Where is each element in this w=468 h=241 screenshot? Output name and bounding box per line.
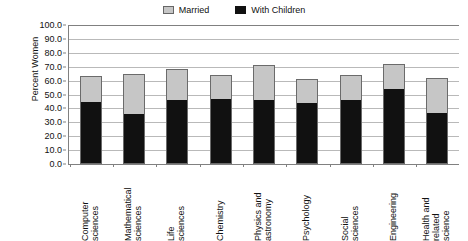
x-axis-category-label: Engineering [382, 170, 404, 241]
y-axis-tick-mark [63, 25, 66, 26]
x-axis-category-label-line: Life [166, 170, 176, 241]
y-axis-tick-mark [63, 150, 66, 151]
bar-series-container [69, 25, 459, 164]
bar-group[interactable] [210, 25, 232, 164]
y-axis-tick-label: 50.0 [44, 90, 62, 99]
legend-label-with-children: With Children [251, 6, 305, 15]
x-axis-category-label-text: Psychology [301, 170, 311, 241]
bar-segment-married[interactable] [210, 75, 232, 164]
bar-segment-married[interactable] [426, 78, 448, 164]
x-axis-category-label-line: sciences [133, 170, 143, 241]
x-axis-category-label-text: Engineering [388, 170, 398, 241]
y-axis-tick-mark [63, 66, 66, 67]
bar-group[interactable] [340, 25, 362, 164]
y-axis-tick-label: 80.0 [44, 48, 62, 57]
x-axis-category-label: Socialsciences [339, 170, 361, 241]
x-axis-category-label-text: Chemistry [215, 170, 225, 241]
bar-segment-with-children[interactable] [427, 113, 447, 163]
bar-segment-with-children[interactable] [81, 102, 101, 163]
legend-item-married: Married [163, 6, 210, 15]
y-axis-tick-mark [63, 122, 66, 123]
chart-legend: Married With Children [0, 2, 468, 18]
x-axis-category-label-line: Engineering [388, 170, 398, 241]
x-axis-tick-mark [122, 164, 144, 168]
x-axis-category-label-line: sciences [176, 170, 186, 241]
bar-group[interactable] [166, 25, 188, 164]
bar-segment-with-children[interactable] [211, 99, 231, 163]
plot-area [68, 25, 459, 165]
bar-segment-married[interactable] [123, 74, 145, 164]
x-axis-category-label-line: Social [340, 170, 350, 241]
y-axis-tick-label: 60.0 [44, 76, 62, 85]
y-axis-tick-label: 10.0 [44, 146, 62, 155]
x-axis-category-labels: ComputersciencesMathematicalsciencesLife… [68, 170, 458, 241]
y-axis-tick-mark [63, 94, 66, 95]
bar-segment-with-children[interactable] [384, 89, 404, 163]
x-axis-category-label-text: Socialsciences [340, 170, 360, 241]
x-axis-category-label-text: Physics andastronomy [253, 170, 273, 241]
x-axis-category-label-line: Chemistry [215, 170, 225, 241]
bar-group[interactable] [80, 25, 102, 164]
x-axis-category-label-line: science [441, 170, 451, 241]
y-axis-tick-mark [63, 136, 66, 137]
bar-segment-married[interactable] [166, 69, 188, 164]
bar-group[interactable] [296, 25, 318, 164]
x-axis-category-label: Computersciences [79, 170, 101, 241]
y-axis-tick-label: 70.0 [44, 62, 62, 71]
bar-segment-with-children[interactable] [341, 100, 361, 163]
bar-group[interactable] [253, 25, 275, 164]
x-axis-category-label-line: astronomy [263, 170, 273, 241]
bar-group[interactable] [383, 25, 405, 164]
x-axis-category-label-line: Computer [80, 170, 90, 241]
x-axis-category-label: Chemistry [209, 170, 231, 241]
y-axis-tick-label: 30.0 [44, 118, 62, 127]
bar-segment-married[interactable] [383, 64, 405, 164]
x-axis-category-label-line: Mathematical [123, 170, 133, 241]
x-axis-tick-mark [79, 164, 101, 168]
x-axis-category-label-text: Mathematicalsciences [123, 170, 143, 241]
y-axis-tick-label: 40.0 [44, 104, 62, 113]
bar-group[interactable] [426, 25, 448, 164]
y-axis-tick-label: 90.0 [44, 34, 62, 43]
bar-segment-married[interactable] [80, 76, 102, 164]
x-axis-category-label: Lifesciences [165, 170, 187, 241]
x-axis-category-label: Psychology [295, 170, 317, 241]
x-axis-category-label-line: Psychology [301, 170, 311, 241]
y-axis-tick-label: 100.0 [39, 21, 62, 30]
bar-segment-married[interactable] [296, 79, 318, 164]
x-axis-tick-mark [295, 164, 317, 168]
y-axis-tick-mark [63, 52, 66, 53]
legend-label-married: Married [179, 6, 210, 15]
x-axis-tick-mark [252, 164, 274, 168]
x-axis-ticks [68, 164, 458, 168]
bar-segment-with-children[interactable] [254, 100, 274, 163]
bar-segment-married[interactable] [253, 65, 275, 164]
x-axis-category-label: Health andrelatedscience [425, 170, 447, 241]
bar-segment-with-children[interactable] [124, 114, 144, 163]
x-axis-category-label-line: sciences [90, 170, 100, 241]
bar-segment-married[interactable] [340, 75, 362, 164]
bar-segment-with-children[interactable] [297, 103, 317, 163]
legend-item-with-children: With Children [235, 6, 305, 15]
y-axis-tick-labels: 100.090.080.070.060.050.040.030.020.010.… [22, 25, 66, 164]
y-axis-tick-label: 20.0 [44, 132, 62, 141]
y-axis-tick-mark [63, 38, 66, 39]
x-axis-category-label-text: Lifesciences [166, 170, 186, 241]
stacked-bar-chart: Married With Children Percent Women 100.… [0, 0, 468, 241]
x-axis-category-label: Mathematicalsciences [122, 170, 144, 241]
bar-segment-with-children[interactable] [167, 100, 187, 163]
x-axis-tick-mark [425, 164, 447, 168]
x-axis-category-label-line: related [431, 170, 441, 241]
x-axis-tick-mark [382, 164, 404, 168]
x-axis-category-label-line: sciences [350, 170, 360, 241]
x-axis-tick-mark [209, 164, 231, 168]
bar-group[interactable] [123, 25, 145, 164]
x-axis-category-label-line: Health and [421, 170, 431, 241]
x-axis-category-label-line: Physics and [253, 170, 263, 241]
x-axis-category-label: Physics andastronomy [252, 170, 274, 241]
y-axis-tick-mark [63, 108, 66, 109]
x-axis-tick-mark [339, 164, 361, 168]
x-axis-category-label-text: Health andrelatedscience [421, 170, 451, 241]
y-axis-tick-label: 0.0 [49, 160, 62, 169]
with-children-swatch-icon [235, 6, 246, 14]
